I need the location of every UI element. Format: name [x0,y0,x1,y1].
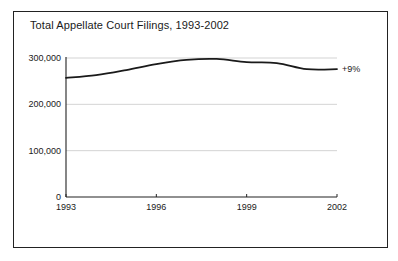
y-tick-label: 0 [56,192,61,202]
gridlines [66,58,337,151]
series-line [66,59,337,78]
line-chart: 0100,000200,000300,000 1993199619992002 … [0,0,398,261]
x-tick-label: 1996 [146,202,166,212]
x-tick-label: 1999 [237,202,257,212]
change-annotation: +9% [342,64,360,74]
annotations: +9% [342,64,360,74]
y-tick-label: 200,000 [28,99,61,109]
y-axis-ticks: 0100,000200,000300,000 [28,53,61,202]
y-tick-label: 300,000 [28,53,61,63]
y-tick-label: 100,000 [28,146,61,156]
data-series [66,59,337,78]
axes [66,57,337,197]
x-tick-label: 1993 [56,202,76,212]
x-tick-label: 2002 [327,202,347,212]
